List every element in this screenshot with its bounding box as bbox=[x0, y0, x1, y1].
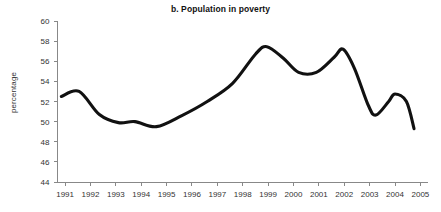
plot-area: 444648505254565860 199119921993199419951… bbox=[0, 0, 441, 212]
x-tick-label: 1993 bbox=[107, 190, 125, 199]
x-tick-label: 2002 bbox=[335, 190, 353, 199]
x-tick-label: 2005 bbox=[411, 190, 429, 199]
y-tick-label: 44 bbox=[41, 178, 50, 187]
y-tick-label: 58 bbox=[41, 37, 50, 46]
x-tick-label: 2003 bbox=[361, 190, 379, 199]
x-tick-label: 1994 bbox=[132, 190, 150, 199]
x-tick-label: 1997 bbox=[208, 190, 226, 199]
x-tick-label: 1996 bbox=[183, 190, 201, 199]
x-tick-label: 1999 bbox=[259, 190, 277, 199]
x-tick-label: 1992 bbox=[82, 190, 100, 199]
x-tick-label: 2001 bbox=[310, 190, 328, 199]
chart-figure: b. Population in poverty percentage 4446… bbox=[0, 0, 441, 212]
x-tick-group: 1991199219931994199519961997199819992000… bbox=[56, 182, 430, 199]
data-series-line bbox=[61, 47, 414, 129]
y-tick-label: 52 bbox=[41, 98, 50, 107]
y-tick-label: 54 bbox=[41, 77, 50, 86]
x-tick-label: 2004 bbox=[386, 190, 404, 199]
y-tick-label: 46 bbox=[41, 158, 50, 167]
y-tick-label: 48 bbox=[41, 138, 50, 147]
x-tick-label: 1995 bbox=[158, 190, 176, 199]
y-tick-label: 60 bbox=[41, 17, 50, 26]
x-tick-label: 1991 bbox=[56, 190, 74, 199]
x-tick-label: 1998 bbox=[234, 190, 252, 199]
y-tick-label: 50 bbox=[41, 118, 50, 127]
x-tick-label: 2000 bbox=[285, 190, 303, 199]
y-tick-group: 444648505254565860 bbox=[41, 17, 58, 187]
y-tick-label: 56 bbox=[41, 57, 50, 66]
